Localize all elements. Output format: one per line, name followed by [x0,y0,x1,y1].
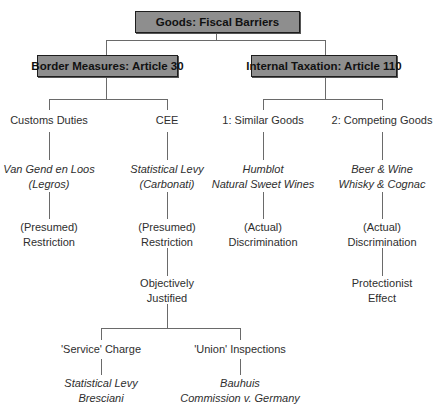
case-line: Statistical Levy [130,162,203,177]
next-line: Justified [140,291,194,306]
connector-to-competing [382,99,383,110]
result-line: (Actual) [347,220,416,235]
border-measures-label: Border Measures: Article 30 [31,60,183,72]
connector-union-cases [240,359,241,375]
case-line: Beer & Wine [339,162,426,177]
case-line: Whisky & Cognac [339,177,426,192]
case-line: Statistical Levy [64,376,137,391]
next-line: Effect [352,291,413,306]
connector-customs-result [49,192,50,219]
customs-duties-node: Customs Duties [10,113,88,128]
connector-customs-cases [49,132,50,160]
next-line: Protectionist [352,276,413,291]
union-cases-node: Bauhuis Commission v. Germany [180,376,300,406]
service-charge-node: 'Service' Charge [61,342,141,357]
connector-internal-down [325,76,326,99]
border-measures-box: Border Measures: Article 30 [37,55,178,77]
result-line: Discrimination [347,235,416,250]
cee-label: CEE [156,113,179,128]
customs-cases-node: Van Gend en Loos (Legros) [3,162,94,192]
connector-to-service [101,328,102,340]
connector-to-cee [167,99,168,110]
protectionist-effect-node: Protectionist Effect [352,276,413,306]
competing-goods-label: 2: Competing Goods [332,113,433,128]
connector-to-similar [263,99,264,110]
connector-to-union [240,328,241,340]
union-inspections-node: 'Union' Inspections [194,342,286,357]
result-line: Restriction [138,235,195,250]
connector-to-internal [325,40,326,55]
service-cases-node: Statistical Levy Bresciani [64,376,137,406]
case-line: Humblot [212,162,315,177]
connector-to-border [106,40,107,55]
result-line: (Presumed) [20,220,77,235]
cee-cases-node: Statistical Levy (Carbonati) [130,162,203,192]
similar-goods-node: 1: Similar Goods [222,113,303,128]
next-line: Objectively [140,276,194,291]
connector-similar-result [263,192,264,219]
connector-internal-split [263,99,383,100]
connector-service-cases [101,359,102,375]
connector-competing-result [382,192,383,219]
case-line: (Legros) [3,177,94,192]
connector-cee-result [167,192,168,219]
objectively-justified-node: Objectively Justified [140,276,194,306]
connector-competing-protectionist [382,248,383,276]
connector-to-customs [49,99,50,110]
connector-justified-split [101,328,241,329]
internal-taxation-box: Internal Taxation: Article 110 [251,55,397,77]
connector-justified-down [167,304,168,328]
connector-cee-cases [167,132,168,160]
competing-cases-node: Beer & Wine Whisky & Cognac [339,162,426,192]
case-line: Van Gend en Loos [3,162,94,177]
case-line: Commission v. Germany [180,391,300,406]
result-line: (Presumed) [138,220,195,235]
connector-competing-cases [382,132,383,160]
competing-goods-node: 2: Competing Goods [332,113,433,128]
case-line: Bauhuis [180,376,300,391]
result-line: (Actual) [228,220,297,235]
customs-result-node: (Presumed) Restriction [20,220,77,250]
cee-result-node: (Presumed) Restriction [138,220,195,250]
connector-cee-justified [167,248,168,276]
result-line: Restriction [20,235,77,250]
competing-result-node: (Actual) Discrimination [347,220,416,250]
connector-root-split [106,40,326,41]
root-label: Goods: Fiscal Barriers [156,16,279,28]
root-box: Goods: Fiscal Barriers [135,11,300,33]
cee-node: CEE [156,113,179,128]
similar-result-node: (Actual) Discrimination [228,220,297,250]
similar-goods-label: 1: Similar Goods [222,113,303,128]
similar-cases-node: Humblot Natural Sweet Wines [212,162,315,192]
case-line: Natural Sweet Wines [212,177,315,192]
connector-similar-cases [263,132,264,160]
result-line: Discrimination [228,235,297,250]
internal-taxation-label: Internal Taxation: Article 110 [246,60,401,72]
case-line: (Carbonati) [130,177,203,192]
customs-duties-label: Customs Duties [10,113,88,128]
connector-border-down [106,76,107,99]
union-inspections-label: 'Union' Inspections [194,342,286,357]
service-charge-label: 'Service' Charge [61,342,141,357]
case-line: Bresciani [64,391,137,406]
connector-root-down [216,32,217,40]
connector-border-split [49,99,168,100]
